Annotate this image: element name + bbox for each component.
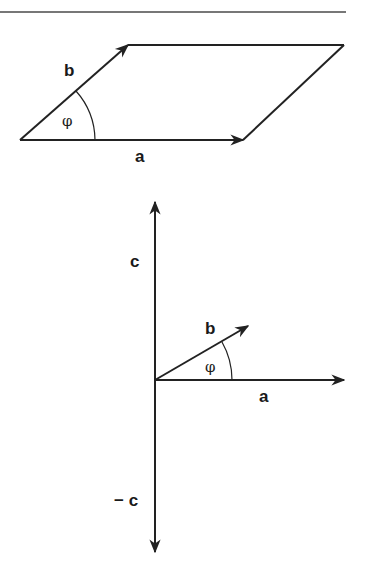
angle-arc	[76, 91, 95, 140]
vector-diagram: b φ a c b φ a − c	[0, 0, 368, 564]
label-c: c	[130, 252, 139, 271]
vector-b-arrow	[20, 45, 128, 140]
parallelogram-figure: b φ a	[20, 45, 344, 166]
label-b: b	[64, 61, 74, 80]
label-a: a	[259, 387, 269, 406]
vector-b-arrow	[155, 326, 248, 380]
angle-arc	[222, 342, 232, 380]
cross-product-figure: c b φ a − c	[114, 202, 344, 552]
label-phi: φ	[62, 112, 73, 130]
label-phi: φ	[205, 358, 216, 376]
label-a: a	[135, 147, 145, 166]
label-neg-c: − c	[114, 491, 138, 510]
label-b: b	[205, 319, 215, 338]
parallelogram-right-edge	[243, 45, 344, 140]
